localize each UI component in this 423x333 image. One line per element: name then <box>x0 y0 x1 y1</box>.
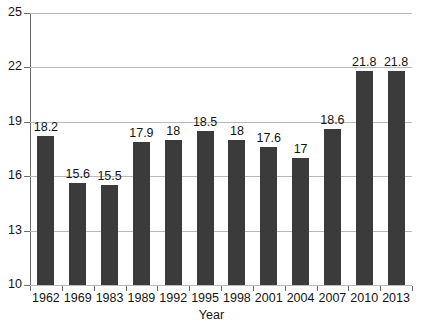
bar[interactable] <box>165 140 182 285</box>
bar[interactable] <box>324 129 341 285</box>
bar[interactable] <box>133 142 150 285</box>
y-tick-label: 16 <box>0 169 22 182</box>
y-tick-label: 22 <box>0 60 22 73</box>
y-tick-label: 19 <box>0 115 22 128</box>
gridline <box>30 231 412 232</box>
bar[interactable] <box>101 185 118 285</box>
plot-area <box>30 13 412 285</box>
bar[interactable] <box>37 136 54 285</box>
gridline <box>30 13 412 14</box>
bar[interactable] <box>292 158 309 285</box>
x-tick-mark <box>317 286 318 291</box>
x-tick-label: 2013 <box>374 292 418 305</box>
x-tick-mark <box>94 286 95 291</box>
x-tick-mark <box>253 286 254 291</box>
x-tick-mark <box>189 286 190 291</box>
x-tick-mark <box>412 286 413 291</box>
bar[interactable] <box>356 71 373 285</box>
x-tick-mark <box>157 286 158 291</box>
x-tick-mark <box>348 286 349 291</box>
bar-value-label: 21.8 <box>374 56 418 69</box>
x-tick-mark <box>380 286 381 291</box>
bar[interactable] <box>388 71 405 285</box>
bar-chart: 101316192225 18.215.615.517.91818.51817.… <box>0 0 423 333</box>
bar-value-label: 17 <box>279 143 323 156</box>
x-tick-mark <box>30 286 31 291</box>
x-tick-mark <box>221 286 222 291</box>
x-tick-mark <box>126 286 127 291</box>
y-tick-label: 25 <box>0 6 22 19</box>
y-tick-label: 13 <box>0 224 22 237</box>
bar-value-label: 15.5 <box>88 170 132 183</box>
x-tick-mark <box>62 286 63 291</box>
bar-value-label: 18.2 <box>24 121 68 134</box>
bar[interactable] <box>228 140 245 285</box>
bar[interactable] <box>260 147 277 285</box>
bar-value-label: 18.6 <box>310 114 354 127</box>
x-tick-mark <box>285 286 286 291</box>
bar[interactable] <box>197 131 214 285</box>
bar[interactable] <box>69 183 86 285</box>
y-tick-label: 10 <box>0 278 22 291</box>
x-axis-title: Year <box>0 309 423 322</box>
